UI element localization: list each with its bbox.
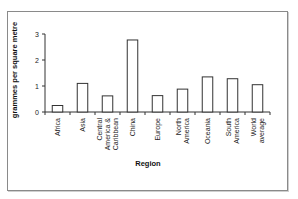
- category-label: Asia: [79, 118, 86, 132]
- category-label-line: World: [250, 118, 257, 136]
- category-label-line: Oceania: [204, 118, 211, 144]
- bar-china: [127, 40, 138, 112]
- category-label: Africa: [54, 118, 61, 136]
- category-label: Europe: [154, 118, 162, 141]
- category-label: China: [129, 118, 136, 136]
- bar-asia: [77, 83, 88, 112]
- category-label: Oceania: [204, 118, 211, 144]
- y-tick-label: 0: [35, 109, 39, 116]
- bar-oceania: [202, 77, 213, 112]
- category-label: SouthAmerica: [225, 118, 240, 144]
- x-axis-title: Region: [135, 159, 161, 168]
- y-tick-label: 2: [35, 57, 39, 64]
- category-label-line: America &: [104, 118, 111, 151]
- category-label: NorthAmerica: [175, 118, 190, 144]
- y-axis: 0123: [35, 31, 45, 116]
- category-label-line: North: [175, 118, 182, 135]
- category-label-line: average: [258, 118, 266, 143]
- category-label-line: Caribbean: [112, 118, 119, 150]
- category-label: CentralAmerica &Caribbean: [96, 118, 119, 151]
- bar-europe: [152, 96, 163, 112]
- y-tick-label: 1: [35, 83, 39, 90]
- category-label-line: South: [225, 118, 232, 136]
- bar-north-america: [177, 89, 188, 112]
- category-label-line: America: [183, 118, 190, 144]
- bar-central-america-caribbean: [102, 96, 113, 112]
- bar-world-average: [252, 85, 263, 112]
- bar-africa: [52, 106, 63, 113]
- category-label-line: Africa: [54, 118, 61, 136]
- bar-chart: 0123 AfricaAsiaCentralAmerica &Caribbean…: [0, 0, 298, 199]
- y-axis-title: grammes per square metre: [10, 22, 19, 118]
- category-label-line: Asia: [79, 118, 86, 132]
- bars: [52, 40, 263, 112]
- bar-south-america: [227, 79, 238, 112]
- category-label-line: Central: [96, 118, 103, 141]
- category-label-line: Europe: [154, 118, 162, 141]
- y-tick-label: 3: [35, 31, 39, 38]
- category-label-line: America: [233, 118, 240, 144]
- category-labels: AfricaAsiaCentralAmerica &CaribbeanChina…: [54, 118, 266, 151]
- category-label: Worldaverage: [250, 118, 266, 143]
- category-label-line: China: [129, 118, 136, 136]
